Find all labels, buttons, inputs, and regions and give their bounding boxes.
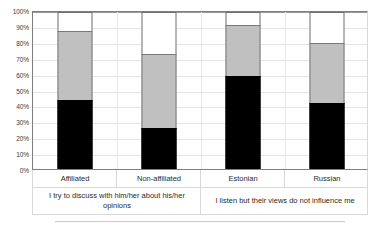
category-label-estonian: Estonian bbox=[201, 170, 285, 187]
y-axis: 100% 90% 80% 70% 60% 50% 40% 30% 20% 10%… bbox=[0, 11, 30, 170]
y-tick-label-10: 10% bbox=[16, 151, 29, 158]
y-tick-label-50: 50% bbox=[16, 87, 29, 94]
footer-divider bbox=[55, 221, 345, 222]
y-tick-label-20: 20% bbox=[16, 135, 29, 142]
bar-segment-black-affiliated[interactable] bbox=[58, 100, 93, 169]
bar-slot-non-affiliated bbox=[117, 12, 201, 169]
category-label-affiliated: Affiliated bbox=[33, 170, 117, 187]
group-label-listen: I listen but their views do not influenc… bbox=[201, 188, 369, 214]
bar-slot-estonian bbox=[201, 12, 285, 169]
y-tick-label-80: 80% bbox=[16, 39, 29, 46]
bar-segment-gray-non-affiliated[interactable] bbox=[142, 54, 177, 128]
group-label-band: I try to discuss with him/her about his/… bbox=[32, 188, 368, 215]
bar-slot-affiliated bbox=[33, 12, 117, 169]
bar-segment-black-estonian[interactable] bbox=[226, 76, 261, 169]
bar-segment-gray-affiliated[interactable] bbox=[58, 31, 93, 100]
y-tick-label-30: 30% bbox=[16, 119, 29, 126]
bars-layer bbox=[33, 12, 367, 169]
bar-segment-black-non-affiliated[interactable] bbox=[142, 128, 177, 169]
bar-segment-white-non-affiliated[interactable] bbox=[142, 12, 177, 54]
bar-slot-russian bbox=[285, 12, 369, 169]
plot-area bbox=[32, 11, 368, 170]
bar-segment-white-affiliated[interactable] bbox=[58, 12, 93, 31]
bar-stack-non-affiliated[interactable] bbox=[142, 12, 177, 169]
bar-segment-white-russian[interactable] bbox=[310, 12, 345, 43]
bar-segment-white-estonian[interactable] bbox=[226, 12, 261, 25]
bar-segment-gray-estonian[interactable] bbox=[226, 25, 261, 77]
y-tick-label-40: 40% bbox=[16, 103, 29, 110]
bar-stack-russian[interactable] bbox=[310, 12, 345, 169]
y-tick-label-70: 70% bbox=[16, 55, 29, 62]
stacked-bar-chart: 100% 90% 80% 70% 60% 50% 40% 30% 20% 10%… bbox=[0, 0, 375, 226]
bar-segment-gray-russian[interactable] bbox=[310, 43, 345, 103]
category-label-non-affiliated: Non-affiliated bbox=[117, 170, 201, 187]
y-tick-label-100: 100% bbox=[13, 8, 29, 15]
category-label-russian: Russian bbox=[285, 170, 369, 187]
y-tick-label-60: 60% bbox=[16, 71, 29, 78]
bar-stack-affiliated[interactable] bbox=[58, 12, 93, 169]
bar-segment-black-russian[interactable] bbox=[310, 103, 345, 169]
y-tick-label-90: 90% bbox=[16, 23, 29, 30]
category-label-band: Affiliated Non-affiliated Estonian Russi… bbox=[32, 170, 368, 188]
y-tick-label-0: 0% bbox=[20, 167, 29, 174]
bar-stack-estonian[interactable] bbox=[226, 12, 261, 169]
group-label-discuss: I try to discuss with him/her about his/… bbox=[33, 188, 201, 214]
